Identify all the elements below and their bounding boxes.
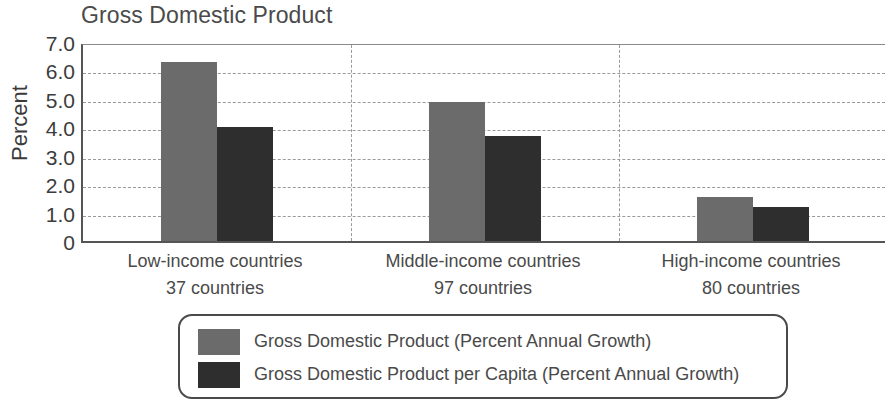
- legend-swatch: [198, 329, 240, 355]
- y-tick-label: 3.0: [15, 147, 75, 168]
- bar: [429, 102, 485, 241]
- y-tick-label: 0: [15, 232, 75, 253]
- bar: [217, 127, 273, 241]
- x-tick-label-name: Low-income countries: [127, 251, 302, 271]
- y-tick-label: 4.0: [15, 118, 75, 139]
- bar: [753, 207, 809, 241]
- bar: [697, 197, 753, 241]
- y-tick-label: 6.0: [15, 61, 75, 82]
- x-tick-label: Low-income countries37 countries: [81, 248, 349, 302]
- y-tick-label: 5.0: [15, 90, 75, 111]
- group-separator: [351, 45, 352, 241]
- x-tick-label-count: 37 countries: [81, 275, 349, 302]
- legend-swatch: [198, 362, 240, 388]
- chart-legend: Gross Domestic Product (Percent Annual G…: [178, 314, 788, 399]
- x-tick-label: Middle-income countries97 countries: [349, 248, 617, 302]
- x-axis-tick-labels: Low-income countries37 countriesMiddle-i…: [81, 248, 885, 304]
- x-tick-label-name: Middle-income countries: [385, 251, 580, 271]
- bar: [485, 136, 541, 241]
- plot-area: [81, 44, 885, 243]
- y-axis-tick-labels: 01.02.03.04.05.06.07.0: [10, 44, 75, 243]
- x-tick-label-name: High-income countries: [661, 251, 840, 271]
- group-separator: [619, 45, 620, 241]
- y-tick-label: 1.0: [15, 204, 75, 225]
- chart-title: Gross Domestic Product: [81, 2, 332, 29]
- x-tick-label-count: 97 countries: [349, 275, 617, 302]
- legend-item[interactable]: Gross Domestic Product per Capita (Perce…: [198, 358, 786, 391]
- y-tick-label: 2.0: [15, 175, 75, 196]
- legend-item[interactable]: Gross Domestic Product (Percent Annual G…: [198, 325, 786, 358]
- bar: [161, 62, 217, 241]
- x-tick-label-count: 80 countries: [617, 275, 885, 302]
- legend-label: Gross Domestic Product per Capita (Perce…: [254, 364, 739, 385]
- x-tick-label: High-income countries80 countries: [617, 248, 885, 302]
- y-tick-label: 7.0: [15, 33, 75, 54]
- legend-label: Gross Domestic Product (Percent Annual G…: [254, 331, 651, 352]
- chart-figure: Gross Domestic Product Percent 01.02.03.…: [0, 0, 895, 417]
